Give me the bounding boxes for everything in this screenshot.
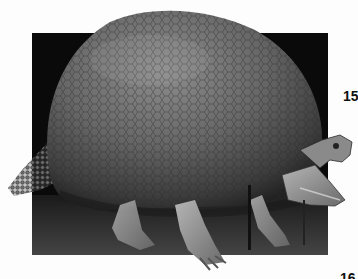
page-number-bottom: 16 [340,271,356,279]
book-page: 15 16 [0,0,358,279]
support-rod [248,185,251,250]
glyptodon-photo [0,0,358,279]
page-number-top: 15 [343,89,358,103]
